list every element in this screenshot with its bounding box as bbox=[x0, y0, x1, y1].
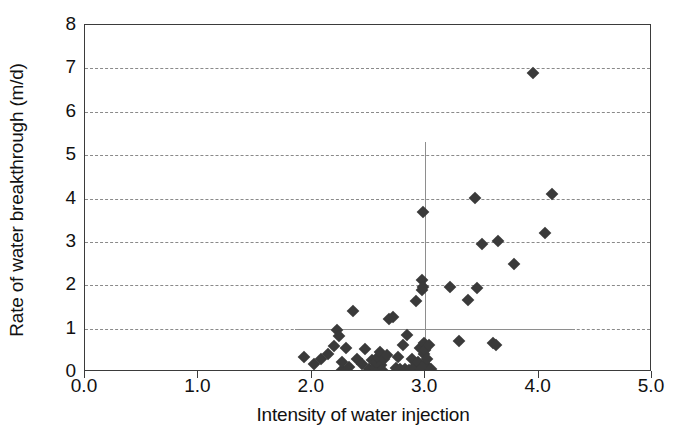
data-point bbox=[444, 281, 457, 294]
data-point bbox=[339, 342, 352, 355]
y-tick-label: 4 bbox=[50, 187, 76, 209]
x-tick-label: 2.0 bbox=[276, 375, 346, 397]
x-tick-label: 5.0 bbox=[616, 375, 686, 397]
data-point bbox=[417, 206, 430, 219]
plot-area bbox=[84, 24, 651, 371]
x-tick-label: 4.0 bbox=[503, 375, 573, 397]
data-point bbox=[471, 282, 484, 295]
gridline-y-4 bbox=[85, 199, 650, 200]
data-point bbox=[410, 295, 423, 308]
data-point bbox=[469, 191, 482, 204]
y-tick-label: 7 bbox=[50, 56, 76, 78]
data-point bbox=[346, 305, 359, 318]
y-tick-label: 8 bbox=[50, 13, 76, 35]
y-axis-title: Rate of water breakthrough (m/d) bbox=[0, 0, 34, 400]
x-tick-label: 3.0 bbox=[389, 375, 459, 397]
gridline-y-5 bbox=[85, 155, 650, 156]
data-point bbox=[476, 238, 489, 251]
data-point bbox=[392, 350, 405, 363]
gridline-y-2 bbox=[85, 285, 650, 286]
reference-line-vertical bbox=[425, 142, 426, 370]
data-point bbox=[359, 343, 372, 356]
y-tick-label: 1 bbox=[50, 317, 76, 339]
gridline-y-6 bbox=[85, 112, 650, 113]
data-point bbox=[462, 294, 475, 307]
plot-inner bbox=[85, 25, 650, 370]
y-tick-label: 3 bbox=[50, 230, 76, 252]
data-point bbox=[491, 235, 504, 248]
y-tick-label: 2 bbox=[50, 273, 76, 295]
x-tick-label: 1.0 bbox=[162, 375, 232, 397]
y-tick-label: 6 bbox=[50, 100, 76, 122]
data-point bbox=[539, 227, 552, 240]
y-tick-label: 5 bbox=[50, 143, 76, 165]
data-point bbox=[297, 350, 310, 363]
scatter-chart-figure: Rate of water breakthrough (m/d) Intensi… bbox=[0, 0, 692, 445]
gridline-y-7 bbox=[85, 68, 650, 69]
data-point bbox=[453, 334, 466, 347]
y-tick-label: 0 bbox=[50, 360, 76, 382]
x-axis-title: Intensity of water injection bbox=[75, 404, 651, 426]
gridline-y-3 bbox=[85, 242, 650, 243]
data-point bbox=[507, 258, 520, 271]
